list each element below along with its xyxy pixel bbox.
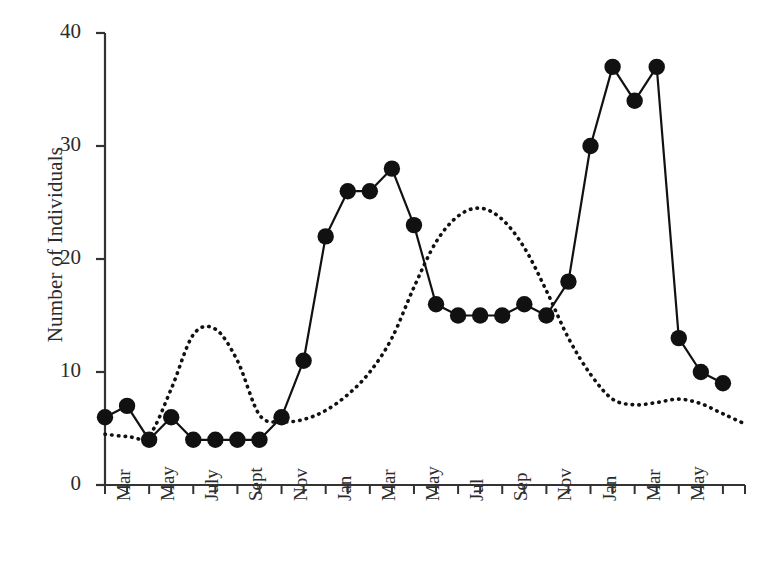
x-axis-ticks	[105, 485, 745, 494]
observed-individuals-markers	[97, 59, 731, 448]
data-point-marker	[163, 409, 179, 425]
data-point-marker	[185, 432, 201, 448]
data-point-marker	[251, 432, 267, 448]
chart-container: Number of Individuals 010203040 MarMayJu…	[0, 0, 771, 572]
data-point-marker	[428, 296, 444, 312]
data-point-marker	[649, 59, 665, 75]
data-point-marker	[97, 409, 113, 425]
smoothed-trend-line	[105, 208, 745, 439]
data-point-marker	[317, 228, 333, 244]
axis-lines	[105, 33, 745, 485]
data-point-marker	[229, 432, 245, 448]
data-point-marker	[384, 160, 400, 176]
plot-area	[0, 0, 771, 572]
data-point-marker	[450, 307, 466, 323]
data-point-marker	[295, 353, 311, 369]
data-point-marker	[207, 432, 223, 448]
data-point-marker	[560, 273, 576, 289]
data-point-marker	[494, 307, 510, 323]
data-point-marker	[626, 93, 642, 109]
observed-individuals-line	[105, 67, 723, 440]
data-point-marker	[604, 59, 620, 75]
data-point-marker	[516, 296, 532, 312]
data-point-marker	[671, 330, 687, 346]
data-point-marker	[273, 409, 289, 425]
data-point-marker	[538, 307, 554, 323]
data-point-marker	[141, 432, 157, 448]
data-point-marker	[472, 307, 488, 323]
data-point-marker	[362, 183, 378, 199]
data-point-marker	[715, 375, 731, 391]
data-point-marker	[406, 217, 422, 233]
data-point-marker	[119, 398, 135, 414]
data-point-marker	[693, 364, 709, 380]
data-point-marker	[340, 183, 356, 199]
data-point-marker	[582, 138, 598, 154]
